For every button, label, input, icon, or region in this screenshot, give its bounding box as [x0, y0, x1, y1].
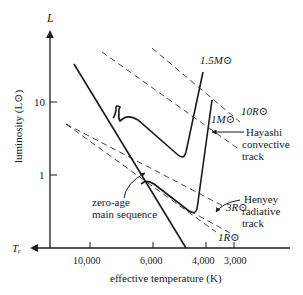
hr-diagram: L 10 1 luminosity (L⊙) Tₑ 10,000 6,000 4… — [0, 0, 303, 295]
track-1-msun — [141, 100, 212, 213]
henyey-dash — [190, 211, 230, 233]
radius-label-1r: 1R⊙ — [218, 231, 239, 243]
x-axis-tick-4000: 4,000 — [192, 255, 215, 266]
hayashi-label-line2: convective — [242, 138, 290, 150]
y-axis-tick-1: 1 — [39, 169, 45, 181]
track-1-5-msun — [113, 72, 203, 157]
radius-lines — [102, 52, 240, 150]
radius-line-3r — [66, 124, 225, 207]
track-label-1-msun: 1M⊙ — [211, 113, 235, 125]
henyey-label-line2: radiative — [242, 205, 281, 217]
radius-line-10 — [102, 52, 240, 150]
zams-label-line1: zero-age — [92, 196, 130, 208]
x-axis-symbol: Tₑ — [12, 242, 21, 254]
y-axis-symbol: L — [46, 11, 54, 25]
henyey-label-line3: track — [242, 217, 264, 229]
y-axis-tick-10: 10 — [34, 96, 46, 108]
x-axis-tick-10000: 10,000 — [73, 255, 101, 266]
x-axis-tick-6000: 6,000 — [140, 255, 163, 266]
hayashi-label-line1: Hayashi — [246, 126, 282, 138]
hayashi-label-line3: track — [242, 150, 264, 162]
x-axis-tick-3000: 3,000 — [224, 255, 247, 266]
track-label-1-5-msun: 1.5M⊙ — [200, 54, 232, 66]
radius-label-10r: 10R⊙ — [241, 105, 268, 117]
x-axis — [34, 242, 290, 248]
y-axis — [50, 34, 57, 248]
zams-label-line2: main sequence — [92, 208, 157, 220]
y-axis-label: luminosity (L⊙) — [12, 90, 25, 163]
henyey-label-line1: Henyey — [244, 193, 279, 205]
x-axis-label: effective temperature (K) — [110, 272, 222, 285]
zams-line — [74, 64, 186, 248]
